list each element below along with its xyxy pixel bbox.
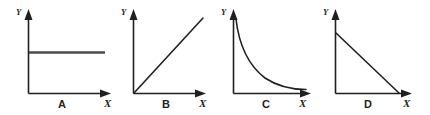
figure-four-graphs: Y X A Y X B	[0, 0, 430, 115]
panel-a-x-label: X	[103, 97, 112, 109]
panel-d-x-label: X	[402, 97, 411, 109]
panel-b-x-label: X	[198, 97, 207, 109]
panel-d-y-label: Y	[323, 7, 329, 17]
arrow-up-icon	[25, 9, 33, 20]
panel-d-x-axis	[336, 90, 413, 98]
panel-d-data-line	[336, 33, 399, 93]
panel-c-data-curve	[236, 19, 306, 90]
panel-a-y-axis	[25, 9, 33, 94]
panel-b-y-label: Y	[121, 7, 127, 17]
panel-c-x-label: X	[298, 97, 307, 109]
panel-a-label: A	[58, 98, 66, 110]
panel-b: Y X B	[121, 7, 207, 110]
panel-d: Y X D	[323, 7, 412, 110]
panel-c-y-label: Y	[221, 7, 227, 17]
graphs-svg: Y X A Y X B	[0, 0, 430, 115]
panel-b-data-line	[134, 18, 203, 93]
panel-c-label: C	[262, 98, 270, 110]
panel-a-x-axis	[29, 90, 112, 98]
panel-a: Y X A	[16, 7, 112, 110]
panel-d-label: D	[364, 98, 372, 110]
panel-c: Y X C	[221, 7, 311, 110]
panel-d-y-axis	[332, 9, 340, 94]
panel-b-label: B	[162, 98, 170, 110]
panel-a-y-label: Y	[16, 7, 22, 17]
panel-b-x-axis	[134, 90, 207, 98]
panel-b-y-axis	[130, 9, 138, 94]
arrow-up-icon	[130, 9, 138, 20]
arrow-up-icon	[332, 9, 340, 20]
